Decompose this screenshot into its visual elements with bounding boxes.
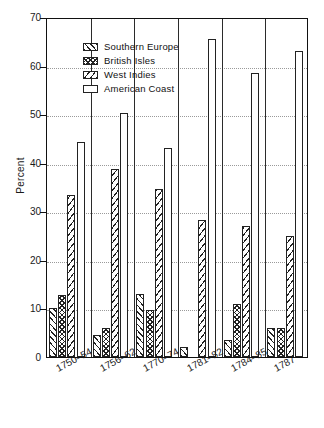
bar-american-coast-1770-74: [164, 148, 172, 357]
bar-southern-europe-1756-62: [93, 335, 101, 357]
bar-american-coast-1781-82: [208, 39, 216, 357]
gridline: [47, 262, 307, 263]
bar-west-indies-1781-82: [198, 220, 206, 357]
y-axis-tick-label: 10: [11, 303, 41, 314]
y-axis-tick-mark: [40, 164, 46, 165]
bar-american-coast-1750-54: [77, 142, 85, 357]
bar-west-indies-1750-54: [67, 195, 75, 357]
y-axis-tick-label: 40: [11, 158, 41, 169]
y-axis-tick-label: 0: [11, 352, 41, 363]
bar-west-indies-1787: [286, 236, 294, 357]
legend-item: West Indies: [83, 68, 179, 81]
bar-american-coast-1756-62: [120, 113, 128, 357]
legend-label: British Isles: [104, 55, 155, 66]
bar-british-isles-1770-74: [146, 310, 154, 357]
legend-swatch-icon: [83, 71, 98, 79]
bar-british-isles-1756-62: [102, 328, 110, 357]
chart-legend: Southern EuropeBritish IslesWest IndiesA…: [83, 40, 179, 96]
group-separator: [265, 19, 266, 357]
y-axis-tick-label: 50: [11, 109, 41, 120]
bar-chart: Percent 010203040506070 1750–541756–6217…: [0, 0, 324, 428]
group-separator: [222, 19, 223, 357]
gridline: [47, 310, 307, 311]
bar-british-isles-1784-85: [233, 304, 241, 357]
bar-southern-europe-1750-54: [49, 308, 57, 357]
y-axis-tick-mark: [40, 309, 46, 310]
gridline: [47, 116, 307, 117]
bar-west-indies-1784-85: [242, 226, 250, 357]
bar-southern-europe-1781-82: [180, 347, 188, 357]
bar-southern-europe-1784-85: [224, 340, 232, 357]
bar-west-indies-1770-74: [155, 189, 163, 357]
bar-british-isles-1787: [277, 328, 285, 357]
legend-item: American Coast: [83, 82, 179, 95]
legend-label: American Coast: [104, 83, 174, 94]
bar-west-indies-1756-62: [111, 169, 119, 357]
bar-southern-europe-1787: [267, 328, 275, 357]
y-axis-tick-label: 30: [11, 206, 41, 217]
y-axis-tick-mark: [40, 261, 46, 262]
legend-label: Southern Europe: [104, 41, 179, 52]
y-axis-tick-label: 60: [11, 61, 41, 72]
y-axis-tick-mark: [40, 18, 46, 19]
legend-swatch-icon: [83, 43, 98, 51]
bar-southern-europe-1770-74: [136, 294, 144, 357]
y-axis-tick-mark: [40, 115, 46, 116]
legend-item: Southern Europe: [83, 40, 179, 53]
bar-american-coast-1787: [295, 51, 303, 357]
gridline: [47, 165, 307, 166]
gridline: [47, 213, 307, 214]
bar-british-isles-1750-54: [58, 295, 66, 357]
bar-american-coast-1784-85: [251, 73, 259, 357]
legend-swatch-icon: [83, 57, 98, 65]
legend-item: British Isles: [83, 54, 179, 67]
y-axis-tick-label: 20: [11, 255, 41, 266]
legend-swatch-icon: [83, 85, 98, 93]
y-axis-tick-mark: [40, 67, 46, 68]
legend-label: West Indies: [104, 69, 156, 80]
y-axis-tick-label: 70: [11, 12, 41, 23]
y-axis-tick-mark: [40, 212, 46, 213]
